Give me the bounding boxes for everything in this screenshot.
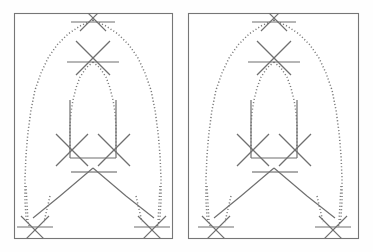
left-panel [15, 5, 173, 244]
screenshot-canvas [0, 0, 373, 252]
right-panel-frame [189, 14, 359, 239]
left-panel-frame [15, 14, 173, 239]
right-panel [189, 5, 359, 244]
drawing-panels [0, 0, 373, 252]
drawing-surface [0, 0, 373, 252]
